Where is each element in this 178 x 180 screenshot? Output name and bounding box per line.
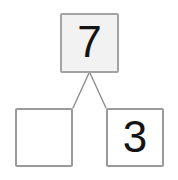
part-box-right[interactable]: 3 [106, 108, 164, 167]
connector-right-line [90, 73, 106, 108]
part-box-left[interactable] [15, 108, 73, 167]
number-bond-diagram: 7 3 [0, 0, 178, 180]
whole-box-value: 7 [77, 20, 101, 64]
part-box-right-value: 3 [123, 115, 147, 159]
whole-box[interactable]: 7 [60, 13, 119, 73]
connector-left-line [73, 73, 89, 108]
